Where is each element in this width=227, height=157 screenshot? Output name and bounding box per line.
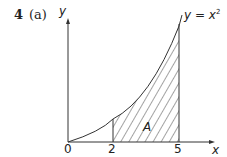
- graph: [0, 0, 227, 157]
- tick-5: 5: [174, 143, 182, 155]
- region-label: A: [143, 121, 151, 133]
- tick-0: 0: [64, 143, 72, 155]
- x-axis-label: x: [212, 144, 219, 156]
- y-axis-arrow: [66, 18, 70, 24]
- curve-label: y = x2: [184, 9, 220, 21]
- y-axis-label: y: [59, 5, 66, 17]
- tick-2: 2: [108, 143, 116, 155]
- curve-label-lhs: y =: [184, 8, 209, 22]
- curve-label-var: x: [209, 8, 216, 22]
- curve-label-exponent: 2: [216, 8, 220, 16]
